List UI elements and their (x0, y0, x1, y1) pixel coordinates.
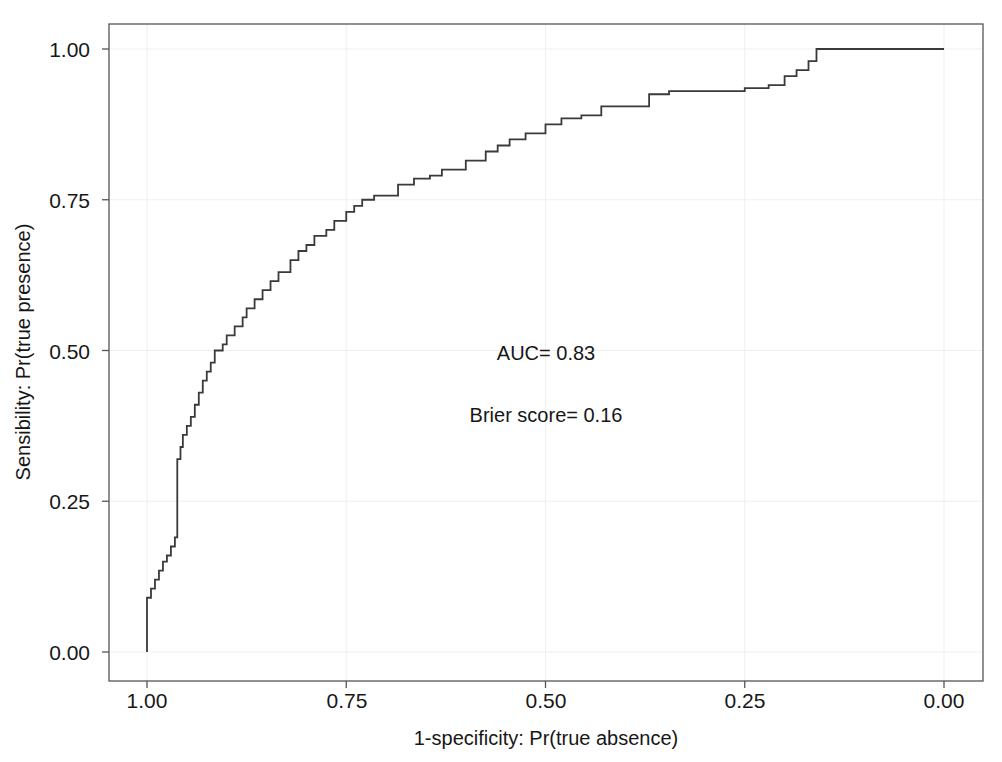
xtick-label-0.75: 0.75 (327, 689, 368, 712)
xtick-label-0.25: 0.25 (725, 689, 766, 712)
brier-score-annotation: Brier score= 0.16 (470, 404, 623, 426)
roc-figure: 1.00 0.75 0.50 0.25 0.00 0.00 0.25 0.50 … (0, 0, 1002, 762)
ytick-label-0.75: 0.75 (49, 189, 90, 212)
auc-annotation: AUC= 0.83 (497, 342, 595, 364)
roc-chart-canvas: 1.00 0.75 0.50 0.25 0.00 0.00 0.25 0.50 … (0, 0, 1002, 762)
y-axis-title: Sensibility: Pr(true presence) (12, 224, 34, 481)
ytick-label-1.00: 1.00 (49, 38, 90, 61)
xtick-label-0.00: 0.00 (924, 689, 965, 712)
xtick-label-0.50: 0.50 (526, 689, 567, 712)
x-axis-title: 1-specificity: Pr(true absence) (414, 727, 679, 749)
ytick-label-0.25: 0.25 (49, 490, 90, 513)
ytick-label-0.00: 0.00 (49, 641, 90, 664)
ytick-label-0.50: 0.50 (49, 340, 90, 363)
xtick-label-1.00: 1.00 (127, 689, 168, 712)
